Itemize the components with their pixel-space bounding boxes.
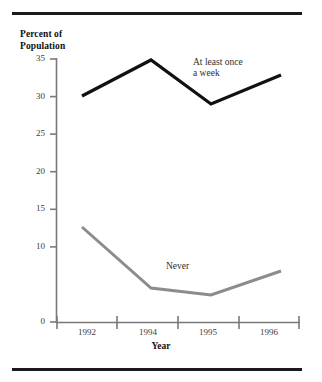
y-axis-ticks [50, 59, 56, 322]
y-tick-label: 20 [25, 166, 45, 176]
y-tick-label: 0 [25, 316, 45, 326]
series-annotation-never: Never [166, 261, 189, 272]
chart-plot-area [0, 0, 322, 382]
y-tick-label: 30 [25, 91, 45, 101]
x-tick-label: 1996 [249, 327, 289, 337]
y-tick-label: 35 [25, 53, 45, 63]
x-tick-label: 1995 [188, 327, 228, 337]
chart-page: Percent of Population 35 30 25 [0, 0, 322, 382]
y-tick-label: 15 [25, 203, 45, 213]
series-line-at-least-once-a-week [82, 60, 281, 104]
y-tick-label: 10 [25, 241, 45, 251]
series-annotation-at-least-once-a-week: At least once a week [193, 57, 243, 79]
x-tick-label: 1992 [67, 327, 107, 337]
x-tick-label: 1994 [128, 327, 168, 337]
x-axis-title: Year [0, 341, 322, 351]
y-tick-label: 25 [25, 128, 45, 138]
